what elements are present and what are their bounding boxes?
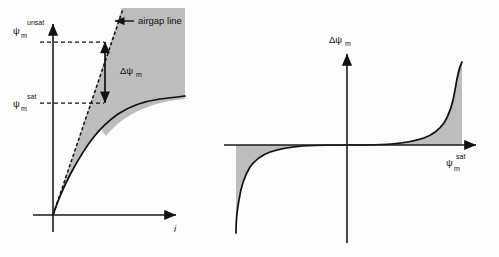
- right-x-axis-symbol: ψ: [446, 157, 453, 168]
- figure-background: [0, 0, 499, 257]
- psi-m-sat-symbol: ψ: [13, 98, 20, 109]
- right-y-axis-subscript: m: [345, 40, 351, 47]
- figure-root: ψ m unsat ψ m sat airgap line Δψ m i: [0, 0, 499, 257]
- figure-canvas: ψ m unsat ψ m sat airgap line Δψ m i: [0, 0, 499, 257]
- left-y-axis-superscript: unsat: [27, 19, 44, 26]
- airgap-line-label: airgap line: [138, 15, 182, 26]
- left-y-axis-subscript: m: [21, 32, 27, 39]
- left-y-axis-symbol: ψ: [13, 25, 20, 36]
- delta-psi-m-symbol: Δψ: [120, 65, 133, 76]
- right-x-axis-subscript: m: [454, 165, 460, 172]
- psi-m-sat-superscript: sat: [27, 93, 36, 100]
- psi-m-sat-subscript: m: [21, 105, 27, 112]
- right-x-axis-superscript: sat: [456, 153, 465, 160]
- delta-psi-m-subscript: m: [136, 71, 142, 78]
- right-y-axis-symbol: Δψ: [329, 34, 342, 45]
